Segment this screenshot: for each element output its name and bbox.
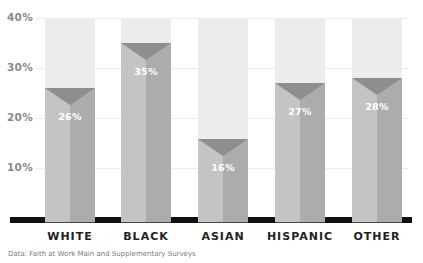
bar-value-label: 27% <box>275 106 325 117</box>
y-tick-30: 30% <box>7 61 33 73</box>
baseline-segment <box>95 217 121 223</box>
source-note: Data: Faith at Work Main and Supplementa… <box>8 250 196 258</box>
bar-face-right <box>70 88 95 223</box>
baseline-segment <box>10 217 45 223</box>
bar-face-right <box>377 78 402 223</box>
bar-face-right <box>300 83 325 223</box>
bar-value-label: 28% <box>352 101 402 112</box>
bar-value-label: 35% <box>121 66 171 77</box>
baseline-segment <box>402 217 412 223</box>
baseline-segment <box>171 217 198 223</box>
bar-white: 26% <box>45 88 95 223</box>
bar-chart: 40% 30% 20% 10% 26%35%16%27%28% WHITEBLA… <box>0 0 423 230</box>
bar-notch <box>275 83 325 100</box>
bar-notch <box>121 43 171 60</box>
y-tick-10: 10% <box>7 161 33 173</box>
bar-face-left <box>45 88 70 223</box>
bar-notch <box>198 139 248 156</box>
bar-other: 28% <box>352 78 402 223</box>
bar-value-label: 26% <box>45 111 95 122</box>
bar-notch <box>352 78 402 95</box>
baseline-segment <box>325 217 352 223</box>
bar-value-label: 16% <box>198 162 248 173</box>
x-label-other: OTHER <box>332 230 422 243</box>
bar-face-left <box>352 78 377 223</box>
bar-black: 35% <box>121 43 171 223</box>
baseline-segment <box>248 217 275 223</box>
bar-asian: 16% <box>198 139 248 223</box>
y-tick-40: 40% <box>7 11 33 23</box>
bar-face-left <box>275 83 300 223</box>
bar-hispanic: 27% <box>275 83 325 223</box>
bar-notch <box>45 88 95 105</box>
y-tick-20: 20% <box>7 111 33 123</box>
